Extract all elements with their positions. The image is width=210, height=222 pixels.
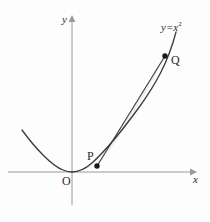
curve-equation-label: y=x2 [161,22,182,33]
point-q-label: Q [171,54,180,66]
parabola-curve [22,32,176,172]
y-axis-arrow-icon [69,15,76,22]
math-figure-parabola: y x O P Q y=x2 [0,0,210,222]
point-p-label: P [87,150,94,162]
point-q-dot [162,53,167,58]
origin-label: O [62,175,71,187]
figure-canvas [0,0,210,222]
point-p-dot [94,163,99,168]
x-axis-label: x [193,174,198,185]
curve-equation-base: y=x [161,21,178,33]
curve-equation-exponent: 2 [178,20,182,28]
chord-pq-line [97,56,165,166]
y-axis-label: y [62,14,67,25]
